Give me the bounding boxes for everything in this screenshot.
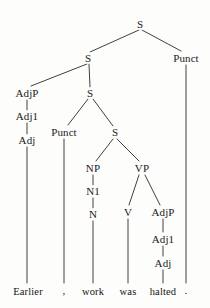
leaf-period: . <box>185 285 188 296</box>
node-s-root: S <box>135 19 144 30</box>
node-np: NP <box>84 163 101 174</box>
edge-s-level2-to-adjp-left <box>31 64 87 86</box>
edge-s-level3-to-s-level4 <box>93 99 113 126</box>
node-s-level4: S <box>110 127 119 138</box>
node-s-level3: S <box>85 88 94 99</box>
node-v: V <box>122 207 133 218</box>
node-adjp-right: AdjP <box>150 207 176 218</box>
node-n: N <box>87 209 98 220</box>
node-adj-right: Adj <box>153 258 173 269</box>
node-adj1-right: Adj1 <box>150 234 175 245</box>
edge-s-level4-to-vp <box>117 139 139 161</box>
edge-s-level2-to-s-level3 <box>89 64 90 87</box>
node-punct-inner: Punct <box>50 127 79 138</box>
node-adj-left: Adj <box>17 135 37 146</box>
edge-s-level3-to-punct-inner <box>68 99 88 125</box>
tree-edges <box>0 0 210 308</box>
syntax-tree-figure: S S Punct AdjP S Adj1 Punct S Adj NP VP … <box>0 0 210 308</box>
node-vp: VP <box>133 163 150 174</box>
node-adj1-left: Adj1 <box>14 111 39 122</box>
node-n1: N1 <box>85 186 102 197</box>
leaf-work: work <box>82 286 104 297</box>
edge-s-level4-to-np <box>96 139 113 161</box>
leaf-earlier: Earlier <box>13 286 43 297</box>
leaf-comma: , <box>63 285 66 296</box>
edge-s-root-to-punct-top <box>142 30 181 51</box>
edge-vp-to-adjp-right <box>145 175 160 205</box>
leaf-was: was <box>120 286 137 297</box>
node-s-level2: S <box>83 53 92 64</box>
leaf-halted: halted <box>150 286 177 297</box>
edge-s-root-to-s-level2 <box>90 30 139 52</box>
edge-vp-to-v <box>129 175 139 205</box>
node-punct-top: Punct <box>172 53 201 64</box>
node-adjp-left: AdjP <box>14 88 40 99</box>
